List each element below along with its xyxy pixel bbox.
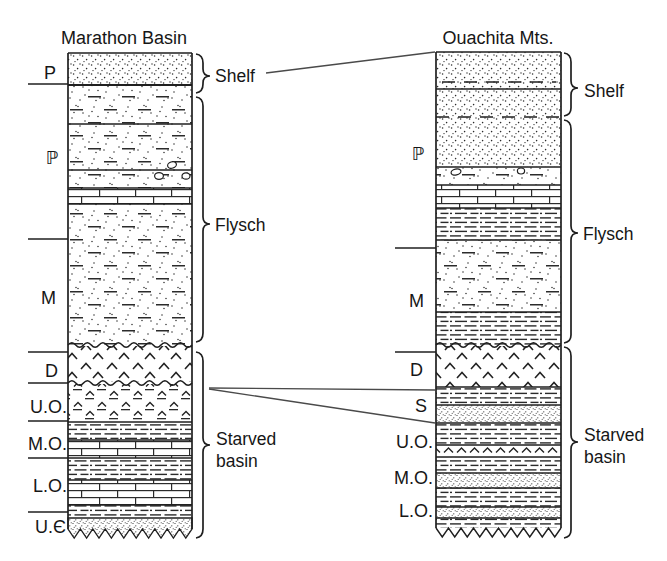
age-label-LO-right: L.O. bbox=[399, 501, 433, 521]
stratigraphy-diagram: Marathon Basin P ℙ M D U.O. M.O. L.O. U.… bbox=[0, 0, 667, 561]
age-label-M-right: M bbox=[409, 291, 424, 311]
ouachita-zone-braces bbox=[564, 53, 578, 538]
ouachita-age-labels: ℙ M D S U.O. M.O. L.O. bbox=[394, 144, 433, 521]
age-label-Penn-right: ℙ bbox=[411, 144, 424, 164]
ouachita-zone-labels: Shelf Flysch Starved basin bbox=[583, 81, 644, 467]
age-label-P: P bbox=[44, 63, 56, 83]
marathon-age-labels: P ℙ M D U.O. M.O. L.O. U.Є bbox=[28, 63, 67, 537]
ouachita-basal-zigzag bbox=[436, 528, 561, 537]
marathon-zone-labels: Shelf Flysch Starved basin bbox=[215, 66, 276, 471]
zone-label-shelf-left: Shelf bbox=[215, 66, 255, 86]
brace-starved-left bbox=[196, 352, 210, 538]
age-label-M: M bbox=[41, 288, 56, 308]
age-label-S-right: S bbox=[415, 396, 427, 416]
brace-starved-right bbox=[564, 347, 578, 538]
zone-label-starved-left-2: basin bbox=[216, 451, 258, 471]
age-label-MO: M.O. bbox=[28, 434, 67, 454]
zone-label-shelf-right: Shelf bbox=[584, 81, 624, 101]
brace-shelf-right bbox=[564, 53, 578, 116]
age-label-UO: U.O. bbox=[30, 397, 67, 417]
marathon-title: Marathon Basin bbox=[61, 28, 187, 48]
zone-label-starved-right-2: basin bbox=[584, 447, 626, 467]
zone-label-flysch-left: Flysch bbox=[215, 215, 266, 235]
age-label-D-right: D bbox=[410, 360, 423, 380]
correlation-lines bbox=[209, 52, 435, 423]
zone-label-starved-left-1: Starved bbox=[216, 429, 276, 449]
marathon-zone-braces bbox=[196, 54, 210, 538]
brace-flysch-left bbox=[196, 97, 210, 342]
age-label-D: D bbox=[45, 361, 58, 381]
brace-shelf-left bbox=[196, 54, 210, 93]
zone-label-starved-right-1: Starved bbox=[584, 425, 644, 445]
brace-flysch-right bbox=[564, 120, 578, 343]
age-label-Penn: ℙ bbox=[45, 148, 58, 168]
age-label-MO-right: M.O. bbox=[394, 468, 433, 488]
diagram-svg: Marathon Basin P ℙ M D U.O. M.O. L.O. U.… bbox=[0, 0, 667, 561]
age-label-UCambrian: U.Є bbox=[35, 517, 66, 537]
correlation-line-shelf bbox=[266, 52, 435, 73]
age-label-LO: L.O. bbox=[33, 476, 67, 496]
marathon-column bbox=[68, 53, 192, 538]
zone-label-flysch-right: Flysch bbox=[583, 224, 634, 244]
age-label-UO-right: U.O. bbox=[396, 432, 433, 452]
correlation-line-silurian-top bbox=[209, 388, 435, 390]
correlation-line-silurian-base bbox=[209, 389, 435, 423]
marathon-basal-zigzag bbox=[68, 518, 192, 538]
ouachita-column bbox=[436, 52, 561, 537]
ouachita-title: Ouachita Mts. bbox=[442, 28, 553, 48]
